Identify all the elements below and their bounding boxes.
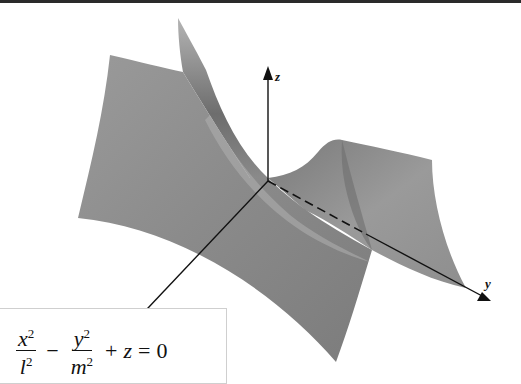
equals-sign: = [138, 338, 150, 364]
fraction-x-over-l: x2 l2 [16, 323, 36, 378]
z-term: z [124, 338, 133, 364]
equation-box: x2 l2 − y2 m2 + z = 0 [0, 308, 227, 384]
rhs-value: 0 [156, 338, 167, 364]
y-axis-label: y [485, 276, 491, 292]
minus-operator: − [46, 338, 58, 364]
saddle-equation: x2 l2 − y2 m2 + z = 0 [12, 323, 167, 378]
z-axis-arrowhead [263, 66, 273, 80]
fraction-y-over-m: y2 m2 [69, 323, 95, 378]
z-axis-label: z [275, 69, 280, 85]
y-axis-arrowhead [477, 292, 491, 301]
plus-operator: + [105, 338, 117, 364]
